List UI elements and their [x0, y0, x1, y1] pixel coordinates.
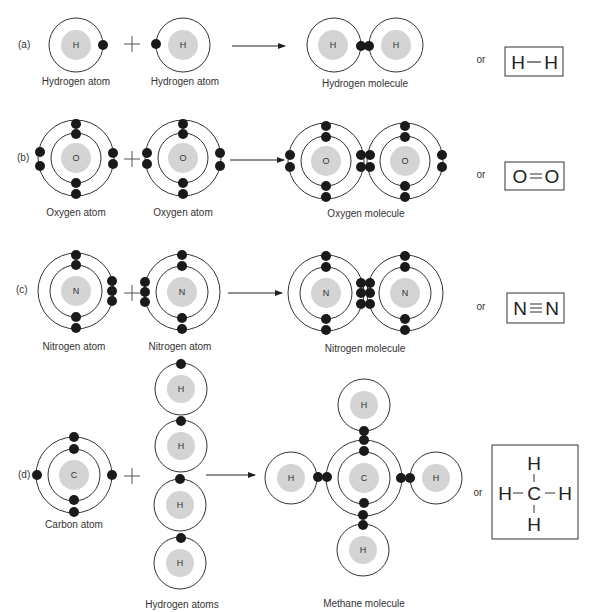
hydrogen-atom-2: H — [151, 18, 210, 72]
svg-text:H: H — [393, 40, 400, 50]
methane-molecule: C H H H H — [265, 379, 462, 576]
svg-text:H: H — [361, 400, 368, 410]
svg-text:C: C — [71, 470, 78, 480]
covalent-bonding-diagram: (a) H Hydrogen atom H Hydrogen atom H H — [0, 0, 589, 612]
product-label: Hydrogen molecule — [322, 78, 409, 89]
svg-text:H: H — [498, 483, 512, 504]
svg-text:N: N — [513, 298, 527, 319]
nitrogen-atom-2: N — [140, 250, 220, 334]
product-label: Nitrogen molecule — [325, 343, 406, 354]
hydrogen-atom: H — [155, 359, 207, 415]
svg-text:H: H — [178, 441, 185, 451]
svg-text:H: H — [73, 40, 80, 50]
or-label: or — [477, 169, 487, 180]
row-b: (b) O Oxygen atom O — [17, 119, 564, 219]
svg-text:H: H — [360, 545, 367, 555]
product-label: Methane molecule — [323, 598, 405, 609]
or-label: or — [474, 487, 484, 498]
svg-text:O: O — [179, 153, 186, 163]
svg-text:N: N — [545, 298, 559, 319]
nitrogen-molecule: N N — [288, 251, 443, 335]
svg-text:O: O — [401, 156, 408, 166]
plus-icon — [124, 285, 140, 301]
svg-text:H: H — [511, 52, 525, 73]
electron-icon — [364, 41, 374, 51]
oxygen-atom-1: O — [35, 119, 118, 199]
svg-text:H: H — [527, 514, 541, 535]
svg-text:N: N — [323, 288, 330, 298]
product-label: Oxygen molecule — [327, 208, 405, 219]
hydrogen-atoms-stack: H H H H — [154, 359, 207, 589]
svg-text:N: N — [73, 286, 80, 296]
row-d: (d) C Carbon atom H — [18, 359, 578, 610]
structural-formula-ch4: H H C H H — [492, 445, 578, 539]
row-c: (c) N Nitrogen atom N — [16, 250, 564, 354]
structural-formula-n2: N N — [507, 293, 564, 323]
svg-text:H: H — [433, 473, 440, 483]
svg-text:N: N — [402, 288, 409, 298]
row-tag: (d) — [18, 469, 30, 480]
row-tag: (b) — [17, 152, 29, 163]
svg-text:H: H — [178, 384, 185, 394]
svg-text:H: H — [527, 453, 541, 474]
reactant2-label: Oxygen atom — [153, 207, 212, 218]
reactant2-label: Hydrogen atom — [151, 76, 219, 87]
svg-text:H: H — [177, 500, 184, 510]
or-label: or — [477, 54, 487, 65]
svg-text:C: C — [361, 473, 368, 483]
plus-icon — [124, 468, 140, 484]
svg-text:O: O — [322, 156, 329, 166]
svg-text:H: H — [180, 40, 187, 50]
hydrogen-molecule: H H — [307, 18, 423, 72]
oxygen-atom-2: O — [142, 119, 225, 199]
electron-icon — [98, 40, 108, 50]
svg-text:O: O — [513, 166, 528, 187]
row-tag: (a) — [18, 39, 30, 50]
svg-text:O: O — [545, 166, 560, 187]
reactant1-label: Hydrogen atom — [42, 76, 110, 87]
structural-formula-h2: H H — [505, 47, 563, 76]
row-a: (a) H Hydrogen atom H Hydrogen atom H H — [18, 18, 563, 89]
reactant1-label: Carbon atom — [45, 519, 103, 530]
reactant2-label: Nitrogen atom — [149, 341, 212, 352]
or-label: or — [477, 301, 487, 312]
reactant1-label: Nitrogen atom — [43, 341, 106, 352]
svg-text:C: C — [527, 483, 541, 504]
svg-text:H: H — [544, 52, 558, 73]
hydrogen-atom: H — [154, 533, 206, 589]
svg-text:H: H — [558, 483, 572, 504]
hydrogen-atom: H — [155, 416, 207, 472]
reactant1-label: Oxygen atom — [46, 207, 105, 218]
structural-formula-o2: O O — [505, 162, 564, 190]
row-tag: (c) — [16, 284, 28, 295]
svg-text:H: H — [330, 40, 337, 50]
hydrogen-atom: H — [154, 474, 206, 531]
carbon-atom: C — [32, 432, 117, 517]
svg-text:H: H — [177, 558, 184, 568]
hydrogen-atom-1: H — [49, 18, 108, 72]
plus-icon — [124, 151, 140, 167]
oxygen-molecule: O O — [285, 121, 447, 202]
reactant2-label: Hydrogen atoms — [145, 599, 218, 610]
plus-icon — [124, 36, 140, 52]
svg-text:H: H — [288, 473, 295, 483]
nitrogen-atom-1: N — [38, 250, 117, 333]
svg-text:O: O — [72, 153, 79, 163]
electron-icon — [151, 39, 161, 49]
svg-text:N: N — [179, 287, 186, 297]
